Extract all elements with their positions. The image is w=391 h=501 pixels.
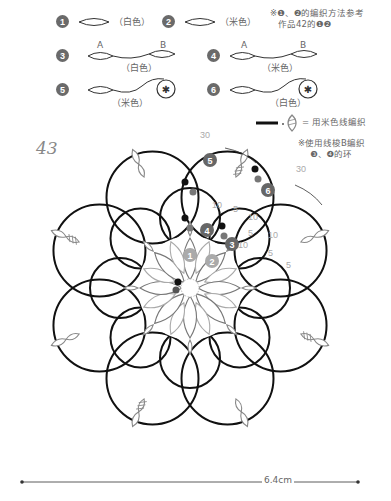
start-dot [190,189,197,196]
start-dot [187,225,194,232]
stitch-count: 5 [233,204,238,214]
dimension-label: 6.4cm [262,475,294,485]
start-dot [173,287,180,294]
stitch-count: 30 [200,130,210,140]
connector-ring [142,323,155,336]
tatting-diagram: 1234563030101055105510 [0,0,391,501]
chain-arc-outer [182,333,274,425]
step-marker-label: 1 [187,251,192,261]
connector-ring [233,163,245,179]
connector-ring [135,398,147,414]
stitch-count: 5 [286,260,291,270]
connector-ring [136,163,146,178]
start-dot [221,233,228,240]
connector-ring [65,233,81,245]
start-dot [252,166,259,173]
chain-arc-outer [106,333,198,425]
stitch-count: 10 [248,212,258,222]
stitch-count: 30 [296,164,306,174]
connector-ring [300,234,315,244]
chain-arc-outer [235,280,327,372]
stitch-count: 5 [268,248,273,258]
chain-arc-outer [53,280,145,372]
step-marker-label: 6 [265,186,270,196]
start-dot [255,176,262,183]
start-dot [219,223,226,230]
connector-ring [242,286,256,290]
chain-arc-outer [182,151,274,243]
start-dot [182,179,189,186]
step-marker-label: 4 [204,226,209,236]
chain-arc-outer [106,151,198,243]
stitch-count: 10 [238,240,248,250]
connector-ring [300,331,316,343]
direction-arrow [295,185,322,205]
connector-ring [124,286,138,290]
dimension-end [356,480,360,484]
connector-ring [142,240,155,253]
step-marker-label: 5 [207,156,212,166]
stitch-count: 5 [248,228,253,238]
stitch-count: 10 [268,230,278,240]
start-dot [175,279,182,286]
connector-ring [234,398,244,413]
step-marker-label: 3 [229,240,234,250]
connector-ring [225,323,238,336]
start-dot [182,215,189,222]
connector-ring [188,340,192,354]
stitch-count: 10 [212,200,222,210]
step-marker-label: 2 [209,257,214,267]
dimension-end [20,480,24,484]
chain-arc-outer [53,204,145,296]
connector-ring [65,332,80,342]
center-ring [181,279,199,297]
